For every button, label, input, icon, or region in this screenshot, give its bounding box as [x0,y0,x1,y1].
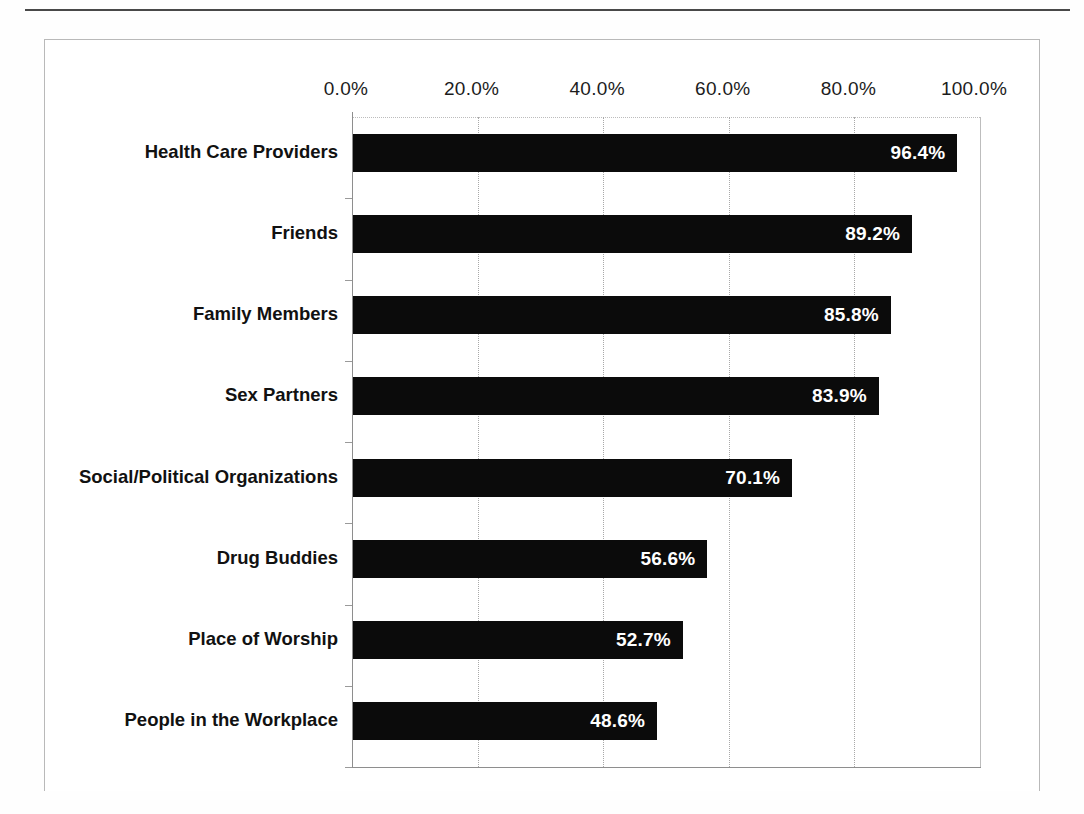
category-label: Drug Buddies [0,547,338,569]
category-label: People in the Workplace [0,709,338,731]
bar-value-label: 85.8% [824,304,891,326]
bar-value-label: 96.4% [891,142,958,164]
bar: 83.9% [352,377,879,415]
category-label: Place of Worship [0,628,338,650]
category-axis-tick [345,442,352,443]
page-root: 0.0%20.0%40.0%60.0%80.0%100.0% 96.4%89.2… [0,0,1084,814]
category-label: Health Care Providers [0,141,338,163]
bar: 85.8% [352,296,891,334]
bar-row: 70.1% [352,459,980,497]
category-axis-tick [345,767,352,768]
bar-row: 85.8% [352,296,980,334]
x-tick-label: 40.0% [570,78,625,100]
category-label: Sex Partners [0,384,338,406]
bar-row: 56.6% [352,540,980,578]
x-tick-label: 60.0% [695,78,750,100]
category-axis-tick [345,605,352,606]
x-tick-label: 20.0% [444,78,499,100]
bar-value-label: 56.6% [641,548,708,570]
bar-value-label: 83.9% [812,385,879,407]
bar-value-label: 48.6% [590,710,657,732]
bar: 52.7% [352,621,683,659]
plot-area: 96.4%89.2%85.8%83.9%70.1%56.6%52.7%48.6% [352,117,980,767]
bar: 96.4% [352,134,957,172]
bar-row: 83.9% [352,377,980,415]
x-tick-label: 80.0% [821,78,876,100]
bar-row: 89.2% [352,215,980,253]
category-axis-tick [345,280,352,281]
bar: 89.2% [352,215,912,253]
category-axis-tick [345,686,352,687]
category-axis [352,112,353,767]
category-label: Friends [0,222,338,244]
category-axis-tick [345,198,352,199]
bar-row: 48.6% [352,702,980,740]
bar: 56.6% [352,540,707,578]
plot-top-rule [352,117,980,118]
bar: 48.6% [352,702,657,740]
bar: 70.1% [352,459,792,497]
bar-value-label: 89.2% [845,223,912,245]
bar-row: 52.7% [352,621,980,659]
category-axis-tick [345,523,352,524]
category-label: Family Members [0,303,338,325]
bar-row: 96.4% [352,134,980,172]
page-header-rule [25,9,1070,11]
category-label: Social/Political Organizations [0,466,338,488]
bar-value-label: 70.1% [725,467,792,489]
gridline-100 [980,117,981,767]
bar-value-label: 52.7% [616,629,683,651]
x-tick-label: 0.0% [324,78,369,100]
value-axis [352,767,981,768]
category-axis-tick [345,361,352,362]
x-tick-label: 100.0% [941,78,1007,100]
